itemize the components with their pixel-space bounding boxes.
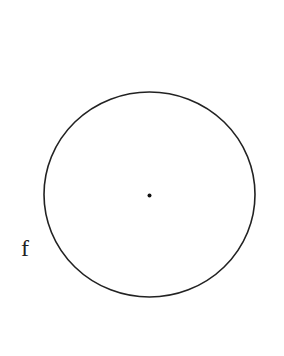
center-point (148, 194, 152, 198)
circle-diagram: f (0, 0, 284, 356)
circle-label: f (21, 235, 29, 261)
